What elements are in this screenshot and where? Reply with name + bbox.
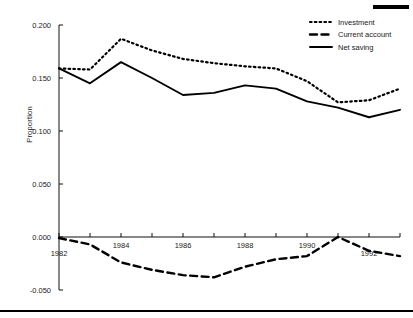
x-tick-label: 1988 [237,241,254,250]
y-tick-label: 0.050 [32,180,51,189]
x-tick-label: 1990 [299,241,316,250]
legend-label: Net saving [338,43,373,52]
series-line [59,237,400,277]
bottom-black-rule [0,310,413,312]
series-line [59,62,400,117]
y-tick-label: 0.000 [32,233,51,242]
y-tick-label: 0.100 [32,127,51,136]
chart-figure: Proportion 0.2000.1500.1000.0500.000-0.0… [0,0,413,318]
y-tick-label: -0.050 [30,286,51,295]
series-layer [59,39,400,278]
x-tick-label: 1982 [51,249,68,258]
x-tick-label: 1984 [113,241,130,250]
chart-legend: InvestmentCurrent accountNet saving [310,18,392,52]
y-tick-label: 0.200 [32,21,51,30]
legend-label: Investment [338,18,376,27]
x-tick-label: 1986 [175,241,192,250]
chart-canvas: 0.2000.1500.1000.0500.000-0.050 19821984… [0,0,413,318]
y-tick-label: 0.150 [32,74,51,83]
legend-label: Current account [338,30,392,39]
x-axis: 198219841986198819901992 [51,233,400,258]
